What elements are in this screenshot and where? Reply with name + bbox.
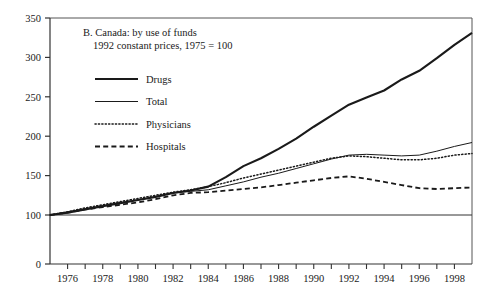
x-tick-label: 1990: [303, 273, 324, 284]
chart-container: 0100150200250300350197619781980198219841…: [0, 0, 496, 301]
x-tick-label: 1992: [338, 273, 359, 284]
y-tick-label: 250: [25, 92, 41, 103]
x-tick-label: 1978: [92, 273, 113, 284]
x-tick-label: 1980: [127, 273, 148, 284]
series-line-physicians: [50, 154, 472, 215]
legend-label-hospitals: Hospitals: [146, 141, 186, 152]
x-tick-label: 1994: [374, 273, 396, 284]
legend-label-drugs: Drugs: [146, 74, 172, 85]
line-chart: 0100150200250300350197619781980198219841…: [0, 0, 496, 301]
x-tick-label: 1982: [163, 273, 184, 284]
y-tick-label: 350: [25, 13, 41, 24]
legend-label-physicians: Physicians: [146, 119, 191, 130]
y-tick-label: 150: [25, 170, 41, 181]
legend-label-total: Total: [146, 96, 168, 107]
chart-title: B. Canada: by use of funds: [83, 27, 197, 38]
y-tick-label: 100: [25, 210, 41, 221]
y-tick-label: 300: [25, 52, 41, 63]
x-tick-label: 1998: [444, 273, 465, 284]
x-tick-label: 1976: [57, 273, 78, 284]
y-tick-label: 200: [25, 131, 41, 142]
x-tick-label: 1988: [268, 273, 289, 284]
chart-subtitle: 1992 constant prices, 1975 = 100: [93, 40, 232, 51]
series-line-hospitals: [50, 176, 472, 215]
x-tick-label: 1996: [409, 273, 430, 284]
y-tick-label: 0: [36, 259, 41, 270]
x-tick-label: 1986: [233, 273, 254, 284]
x-tick-label: 1984: [198, 273, 220, 284]
series-line-total: [50, 143, 472, 216]
